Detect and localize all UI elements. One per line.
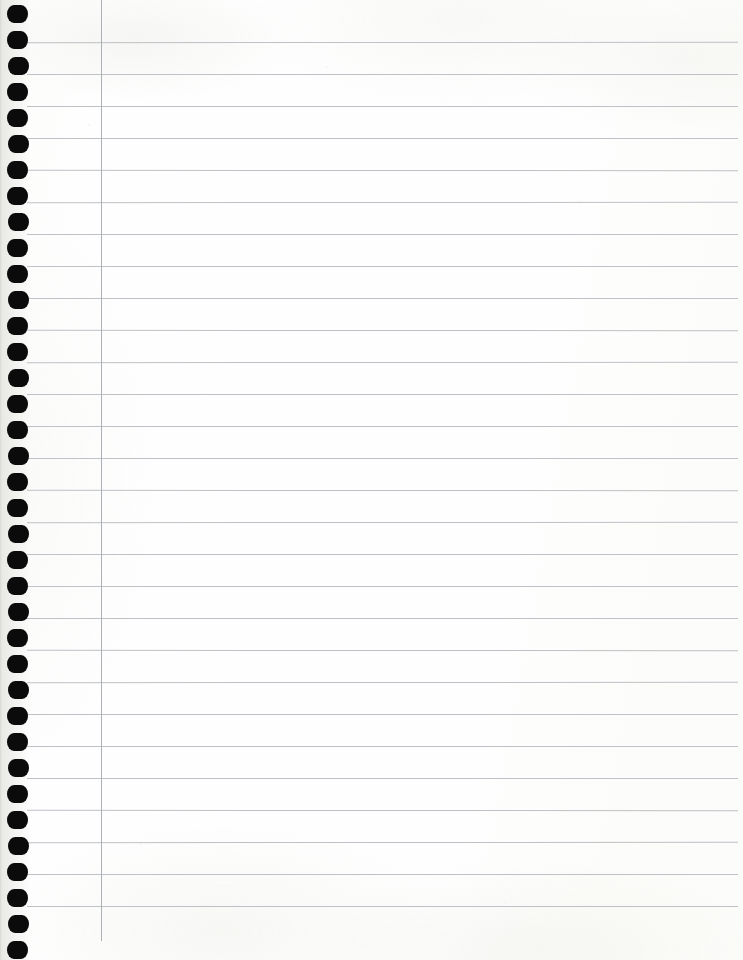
spiral-hole bbox=[7, 187, 28, 205]
spiral-hole bbox=[7, 343, 28, 361]
spiral-hole bbox=[8, 135, 29, 153]
spiral-hole bbox=[7, 5, 28, 23]
spiral-hole bbox=[8, 291, 29, 309]
spiral-hole bbox=[7, 629, 28, 647]
spiral-hole bbox=[7, 707, 28, 725]
spiral-hole bbox=[7, 499, 28, 517]
spiral-hole bbox=[7, 421, 28, 439]
spiral-hole bbox=[7, 83, 28, 101]
spiral-hole bbox=[7, 941, 28, 959]
spiral-hole bbox=[8, 57, 29, 75]
spiral-hole bbox=[7, 577, 28, 595]
spiral-hole bbox=[7, 265, 28, 283]
spiral-hole bbox=[8, 525, 29, 543]
spiral-hole bbox=[7, 395, 28, 413]
spiral-hole bbox=[7, 239, 28, 257]
spiral-hole bbox=[7, 161, 28, 179]
spiral-hole bbox=[7, 473, 28, 491]
spiral-hole bbox=[7, 785, 28, 803]
spiral-hole bbox=[7, 733, 28, 751]
spiral-hole bbox=[7, 889, 28, 907]
spiral-hole bbox=[7, 655, 28, 673]
spiral-hole bbox=[7, 863, 28, 881]
spiral-hole bbox=[8, 837, 29, 855]
spiral-hole bbox=[8, 681, 29, 699]
spiral-hole bbox=[8, 759, 29, 777]
spiral-hole bbox=[7, 551, 28, 569]
spiral-hole bbox=[8, 447, 29, 465]
spiral-hole bbox=[7, 31, 28, 49]
writing-area[interactable] bbox=[101, 42, 738, 940]
notebook-page bbox=[0, 0, 743, 960]
spiral-hole bbox=[7, 811, 28, 829]
spiral-hole bbox=[7, 109, 28, 127]
spiral-hole bbox=[8, 915, 29, 933]
spiral-hole bbox=[8, 369, 29, 387]
spiral-hole bbox=[8, 603, 29, 621]
spiral-hole bbox=[7, 317, 28, 335]
spiral-hole bbox=[8, 213, 29, 231]
